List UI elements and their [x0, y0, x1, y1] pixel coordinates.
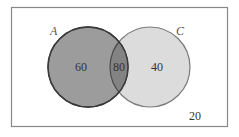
set-c-label: C: [176, 24, 185, 38]
set-c-only-value: 40: [151, 60, 163, 74]
venn-diagram: A C 60 80 40 20: [0, 0, 239, 137]
intersection-value: 80: [113, 60, 125, 74]
outside-value: 20: [189, 109, 201, 123]
set-a-label: A: [49, 24, 58, 38]
set-a-only-value: 60: [75, 60, 87, 74]
